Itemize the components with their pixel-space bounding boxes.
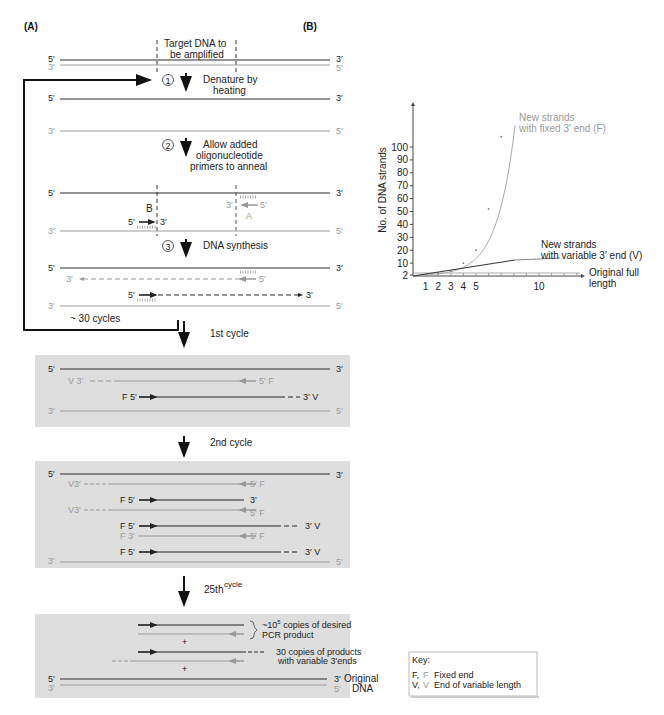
panel-a-label: (A): [24, 21, 38, 32]
label-5prime: 5′: [48, 364, 55, 374]
svg-text:80: 80: [397, 167, 409, 178]
svg-text:2: 2: [435, 281, 441, 292]
label-3prime: 3′: [336, 188, 343, 198]
step-1: 1 Denature by heating: [163, 73, 258, 96]
strand-label: F 5′: [120, 547, 135, 557]
label-3prime: 3′: [48, 126, 55, 136]
annot-variable: New strands: [541, 239, 597, 250]
cycle-label-25th: 25th: [204, 584, 223, 595]
label-3prime: 3′: [48, 226, 55, 236]
annot-fixed: New strands: [519, 112, 575, 123]
svg-text:50: 50: [397, 206, 409, 217]
svg-text:30: 30: [397, 232, 409, 243]
svg-text:1: 1: [423, 281, 429, 292]
svg-text:100: 100: [391, 142, 408, 153]
label-3prime: 3′: [336, 364, 343, 374]
label-5prime: 5′: [336, 301, 343, 311]
strand-label: 3′ V: [305, 547, 320, 557]
label-3prime: 3′: [48, 556, 55, 566]
key-v-light: V: [423, 680, 429, 690]
svg-text:4: 4: [461, 281, 467, 292]
key-f-desc: Fixed end: [434, 670, 474, 680]
strand-count-chart: 2102030405060708090100 1234510 No. of DN…: [377, 104, 642, 292]
step-label: primers to anneal: [190, 161, 267, 172]
step-label: oligonucleotide: [196, 150, 263, 161]
label-3prime: 3′: [336, 263, 343, 273]
svg-text:3: 3: [448, 281, 454, 292]
strand-label: 5′ F: [250, 508, 265, 518]
label-5prime: 5′: [336, 406, 343, 416]
svg-text:40: 40: [397, 219, 409, 230]
label-3prime: 3′: [336, 470, 343, 480]
strand-label: 3′ V: [305, 521, 320, 531]
strand-3v-label: 3′ V: [303, 392, 318, 402]
svg-text:2: 2: [402, 270, 408, 281]
key-v-dark: V,: [412, 680, 420, 690]
strand-label: 3′: [250, 495, 257, 505]
svg-text:10: 10: [397, 258, 409, 269]
svg-text:70: 70: [397, 180, 409, 191]
label-3prime: 3′: [48, 683, 55, 693]
step-3: 3 DNA synthesis: [163, 239, 269, 256]
primer-b-label: B: [146, 203, 153, 214]
step-label: DNA synthesis: [203, 240, 268, 251]
label-5prime: 5′: [128, 290, 135, 300]
strand-f5-label: F 5′: [122, 392, 137, 402]
primer-b-5prime: 5′: [128, 217, 135, 227]
strand-5f-label: 5′ F: [259, 376, 274, 386]
step-label: heating: [213, 85, 246, 96]
target-dna: Target DNA to be amplified 5′ 3′ 3′ 5′: [48, 38, 343, 73]
strand-v3-label: V 3′: [68, 376, 84, 386]
primer-a-3prime: 3′: [226, 200, 233, 210]
y-ticks: 2102030405060708090100: [391, 142, 413, 281]
label-3prime: 3′: [48, 62, 55, 72]
annot-fixed-2: with fixed 3′ end (F): [518, 123, 606, 134]
desired-product-label-2: PCR product: [262, 630, 314, 640]
strand-label: F 5′: [120, 521, 135, 531]
label-5prime: 5′: [48, 469, 55, 479]
primer-b-3prime: 3′: [160, 217, 167, 227]
fixed-end-curve: [413, 126, 515, 276]
plus-sign: +: [182, 637, 187, 647]
step-number: 2: [166, 141, 171, 151]
label-3prime: 3′: [336, 93, 343, 103]
annot-variable-2: with variable 3′ end (V): [540, 250, 642, 261]
primer-a-label: A: [246, 211, 252, 221]
label-3prime: 3′: [334, 674, 341, 684]
annot-original-2: length: [589, 278, 616, 289]
primer-a-5prime: 5′: [260, 200, 267, 210]
plus-sign: +: [182, 664, 187, 674]
y-axis-label: No. of DNA strands: [377, 147, 388, 233]
cycle-label-1st: 1st cycle: [210, 328, 249, 339]
label-5prime: 5′: [48, 93, 55, 103]
desired-product-label: ~105 copies of desired: [262, 619, 351, 630]
label-3prime: 3′: [48, 301, 55, 311]
key-v-desc: End of variable length: [434, 680, 521, 690]
label-5prime: 5′: [48, 188, 55, 198]
svg-text:90: 90: [397, 154, 409, 165]
key-f-dark: F,: [412, 670, 419, 680]
variable-end-line: [413, 260, 515, 276]
svg-text:5: 5: [473, 281, 479, 292]
strand-label: 5′ F: [250, 531, 265, 541]
label-5prime: 5′: [48, 263, 55, 273]
cycle-2-box: 5′ 3′ V3′ 5′ F F 5′ 3′ V3′ 5′ F F 5′ 3′ …: [35, 461, 350, 568]
cycle-1-box: 5′ 3′ V 3′ 5′ F F 5′ 3′ V 3′ 5′: [35, 355, 350, 427]
loop-label: ~ 30 cycles: [70, 313, 120, 324]
label-5prime: 5′: [259, 274, 266, 284]
label-5prime: 5′: [334, 684, 341, 694]
strand-label: V3′: [68, 505, 81, 515]
strand-label: V3′: [68, 479, 81, 489]
strand-label: F 5′: [120, 495, 135, 505]
panel-b-label: (B): [303, 21, 317, 32]
key-legend: Key: F, F Fixed end V, V End of variable…: [409, 652, 539, 697]
svg-text:60: 60: [397, 193, 409, 204]
step-label: Denature by: [203, 74, 257, 85]
strand-label: 5′ F: [250, 479, 265, 489]
step-number: 1: [166, 76, 171, 86]
annot-original: Original full: [589, 267, 639, 278]
pcr-figure: (A) (B) Target DNA to be amplified 5′ 3′…: [0, 0, 664, 715]
label-3prime: 3′: [66, 274, 73, 284]
svg-text:10: 10: [533, 281, 545, 292]
target-label: Target DNA to: [164, 38, 227, 49]
